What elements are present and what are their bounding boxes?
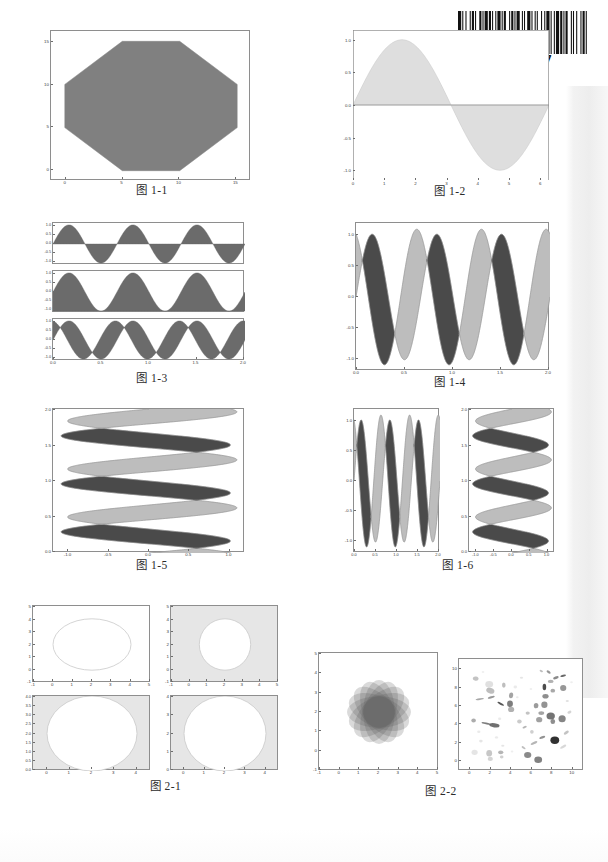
x-tick-label: 4	[509, 770, 511, 775]
tick-mark	[53, 291, 55, 292]
tick-mark	[354, 510, 356, 511]
y-tick-label: -0.5	[44, 250, 51, 254]
y-tick-label: 6	[455, 702, 457, 707]
y-tick-label: 0	[47, 166, 49, 171]
tick-mark	[53, 261, 55, 262]
fig-2-1-panels: -1012345-1012345 -1012345-1012345 012340…	[8, 600, 293, 775]
tick-mark	[243, 357, 244, 359]
x-tick-label: -0.5	[490, 552, 497, 557]
tick-mark	[33, 705, 35, 706]
tick-mark	[53, 516, 55, 517]
y-tick-label: 4.0	[25, 694, 31, 699]
y-tick-label: 3	[167, 712, 169, 717]
tick-mark	[224, 767, 225, 769]
tick-mark	[53, 282, 55, 283]
fig-2-2-panel-left: -1012345-1012345	[318, 652, 438, 770]
fig-1-4-caption: 图 1-4	[325, 373, 575, 389]
x-tick-label: 5	[276, 682, 278, 687]
tick-mark	[67, 549, 68, 551]
tick-mark	[53, 273, 55, 274]
figure-2-1: -1012345-1012345 -1012345-1012345 012340…	[8, 600, 293, 793]
x-tick-label: 6	[539, 181, 541, 186]
y-tick-label: 4	[29, 616, 31, 621]
tick-mark	[183, 767, 184, 769]
y-tick-label: 1.5	[25, 739, 31, 744]
x-tick-label: 0.0	[145, 552, 151, 557]
y-tick-label: 0.0	[46, 289, 51, 293]
x-tick-label: 3	[112, 770, 114, 775]
fig-1-2-caption: 图 1-2	[325, 182, 575, 198]
y-tick-label: 3.5	[25, 703, 31, 708]
tick-mark	[265, 767, 266, 769]
x-tick-label: 4	[128, 682, 130, 687]
tick-mark	[469, 409, 471, 410]
y-tick-label: 1.0	[46, 271, 51, 275]
fig-1-3-panels: 1.00.50.0-0.5-1.0 1.00.50.0-0.5-1.0 0.00…	[52, 222, 244, 360]
y-tick-label: 0.5	[345, 70, 351, 75]
y-tick-label: -1.0	[44, 259, 51, 263]
tick-mark	[53, 409, 55, 410]
fig-1-4-axes: 0.00.51.01.52.01.00.50.0-0.5-1.0	[355, 222, 549, 370]
tick-mark	[171, 644, 173, 645]
y-tick-label: 1.0	[46, 223, 51, 227]
y-tick-label: -1	[313, 767, 317, 772]
figure-1-6: 0.00.51.01.52.01.00.50.0-0.5-1.0 -1.0-0.…	[325, 408, 585, 572]
tick-mark	[171, 751, 173, 752]
tick-mark	[356, 265, 358, 266]
tick-mark	[259, 679, 260, 681]
y-tick-label: 0.5	[461, 513, 467, 518]
tick-mark	[510, 767, 511, 769]
y-tick-label: 0.0	[346, 478, 352, 483]
tick-mark	[572, 767, 573, 769]
y-tick-label: -1.0	[343, 168, 351, 173]
tick-mark	[459, 687, 461, 688]
figure-1-1: 051015051015 图 1-1	[22, 30, 282, 197]
y-tick-label: 2.0	[461, 407, 467, 412]
x-tick-label: 5	[508, 181, 510, 186]
x-tick-label: 3	[243, 770, 245, 775]
fig-1-3-panel-3: 0.00.51.01.52.01.00.50.0-0.5-1.0	[52, 318, 244, 360]
figure-1-5: -1.0-0.50.00.51.00.00.51.01.52.0 图 1-5	[22, 408, 282, 572]
y-tick-label: 0	[167, 767, 169, 772]
x-tick-label: 0.5	[98, 360, 104, 365]
x-tick-label: 0	[51, 682, 53, 687]
x-tick-label: -1	[31, 682, 35, 687]
x-tick-label: 2	[489, 770, 491, 775]
figure-1-2: 01234561.00.50.0-0.5-1.0 图 1-2	[325, 30, 575, 198]
x-tick-label: 3	[240, 682, 242, 687]
tick-mark	[46, 767, 47, 769]
tick-mark	[437, 767, 438, 769]
tick-mark	[319, 653, 321, 654]
tick-mark	[319, 769, 321, 770]
tick-mark	[415, 178, 416, 180]
tick-mark	[148, 357, 149, 359]
tick-mark	[356, 327, 358, 328]
tick-mark	[53, 357, 55, 358]
tick-mark	[52, 679, 53, 681]
tick-mark	[130, 679, 131, 681]
y-tick-label: 15	[44, 39, 49, 44]
fig-1-3-caption: 图 1-3	[22, 369, 282, 385]
x-tick-label: -1.0	[472, 552, 479, 557]
tick-mark	[53, 339, 55, 340]
fig-2-1-panel-br: 0123401234	[170, 695, 278, 770]
y-tick-label: 8	[455, 684, 457, 689]
tick-mark	[353, 138, 355, 139]
tick-mark	[459, 723, 461, 724]
x-tick-label: 2	[223, 682, 225, 687]
x-tick-label: 0	[63, 180, 65, 185]
x-tick-label: 4	[258, 682, 260, 687]
x-tick-label: 1.0	[225, 552, 231, 557]
x-tick-label: 1	[357, 770, 359, 775]
tick-mark	[171, 733, 173, 734]
x-tick-label: 1.0	[145, 360, 151, 365]
y-tick-label: 0.0	[46, 337, 51, 341]
tick-mark	[417, 549, 418, 551]
tick-mark	[33, 733, 35, 734]
tick-mark	[53, 300, 55, 301]
y-tick-label: 0.0	[345, 103, 351, 108]
figure-1-3: 1.00.50.0-0.5-1.0 1.00.50.0-0.5-1.0 0.00…	[22, 222, 282, 385]
tick-mark	[354, 480, 356, 481]
tick-mark	[33, 751, 35, 752]
x-tick-label: 0.5	[185, 552, 191, 557]
